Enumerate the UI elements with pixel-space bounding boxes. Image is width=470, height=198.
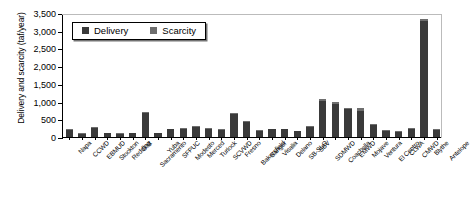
bar-group[interactable]: [91, 127, 99, 137]
bar-segment-delivery: [230, 114, 238, 137]
legend-label-delivery: Delivery: [94, 26, 128, 36]
bar-group[interactable]: [420, 19, 428, 137]
chart-legend[interactable]: Delivery Scarcity: [72, 22, 206, 40]
y-tick: [58, 14, 63, 15]
bar-segment-delivery: [319, 101, 327, 137]
bar-group[interactable]: [268, 129, 276, 137]
bar-segment-delivery: [370, 125, 378, 137]
bar-group[interactable]: [306, 126, 314, 137]
y-tick: [58, 32, 63, 33]
y-tick: [58, 120, 63, 121]
bar-segment-delivery: [218, 130, 226, 137]
bar-group[interactable]: [281, 129, 289, 137]
bar-segment-delivery: [268, 129, 276, 137]
y-tick-label: 500: [41, 116, 56, 125]
legend-swatch-delivery: [82, 27, 89, 34]
bar-group[interactable]: [66, 129, 74, 137]
bar-group[interactable]: [319, 99, 327, 137]
y-tick: [58, 67, 63, 68]
bar-group[interactable]: [167, 129, 175, 137]
legend-swatch-scarcity: [150, 27, 157, 34]
bar-group[interactable]: [243, 121, 251, 137]
bar-group[interactable]: [332, 102, 340, 137]
bar-group[interactable]: [382, 130, 390, 137]
bar-segment-delivery: [433, 130, 441, 137]
bar-group[interactable]: [192, 126, 200, 137]
bar-segment-delivery: [420, 21, 428, 137]
bar-group[interactable]: [142, 112, 150, 137]
bar-segment-delivery: [167, 129, 175, 137]
bar-segment-delivery: [192, 127, 200, 137]
y-tick: [58, 103, 63, 104]
y-tick: [58, 138, 63, 139]
bar-segment-delivery: [344, 109, 352, 137]
bar-segment-delivery: [142, 113, 150, 137]
bar-group[interactable]: [344, 108, 352, 137]
y-tick-label: 0: [51, 134, 56, 143]
y-tick-label: 2,000: [33, 63, 56, 72]
bar-group[interactable]: [357, 108, 365, 137]
bar-segment-delivery: [66, 130, 74, 137]
x-tick-label: Antelope: [448, 140, 470, 162]
y-tick: [58, 49, 63, 50]
y-tick: [58, 85, 63, 86]
bar-group[interactable]: [433, 129, 441, 137]
bar-segment-delivery: [357, 111, 365, 137]
bar-group[interactable]: [205, 128, 213, 137]
bar-segment-delivery: [91, 128, 99, 137]
bar-group[interactable]: [408, 128, 416, 137]
y-tick-label: 2,500: [33, 45, 56, 54]
bar-segment-delivery: [306, 127, 314, 137]
bar-group[interactable]: [230, 113, 238, 137]
bar-segment-delivery: [180, 129, 188, 137]
bar-segment-delivery: [332, 104, 340, 137]
x-axis-labels: NapaCCWDEBMUDStocktonReddingGaltSacramen…: [62, 140, 442, 198]
legend-label-scarcity: Scarcity: [162, 26, 196, 36]
y-tick-label: 1,000: [33, 98, 56, 107]
bar-segment-delivery: [281, 129, 289, 137]
bar-group[interactable]: [180, 128, 188, 137]
bar-segment-delivery: [408, 129, 416, 137]
legend-item-scarcity[interactable]: Scarcity: [150, 26, 196, 36]
y-tick-label: 3,000: [33, 27, 56, 36]
y-tick-label: 3,500: [33, 10, 56, 19]
bar-segment-delivery: [243, 122, 251, 137]
bar-group[interactable]: [370, 124, 378, 137]
legend-item-delivery[interactable]: Delivery: [82, 26, 128, 36]
y-tick-label: 1,500: [33, 80, 56, 89]
y-axis-title: Delivery and scarcity (taf/year): [16, 0, 26, 143]
bar-group[interactable]: [218, 129, 226, 137]
bar-group[interactable]: [256, 130, 264, 137]
bar-segment-delivery: [205, 129, 213, 137]
